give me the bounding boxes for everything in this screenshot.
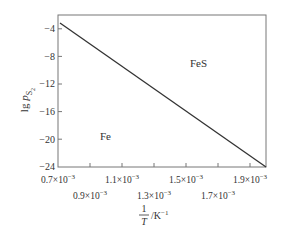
y-tick-label: −12 [39, 78, 55, 89]
plot-frame [58, 15, 266, 167]
svg-text:/K−1: /K−1 [151, 209, 169, 221]
x-tick-label: 1.7×10−3 [201, 189, 236, 201]
region-label-fe: Fe [100, 130, 111, 142]
y-tick-label: −4 [44, 23, 55, 34]
y-axis-label: lg pS2 [18, 88, 36, 112]
x-tick-label: 1.3×10−3 [137, 189, 172, 201]
svg-text:1: 1 [142, 203, 147, 214]
phase-diagram-chart: −4 −8 −12 −16 −20 −24 0.7×10−3 1.1×10−3 … [0, 0, 290, 242]
x-tick-label: 0.7×10−3 [41, 173, 76, 185]
x-axis-ticks [90, 163, 250, 167]
y-axis-ticks [58, 29, 62, 139]
x-tick-labels-lower: 0.9×10−3 1.3×10−3 1.7×10−3 [73, 189, 236, 201]
x-tick-labels-upper: 0.7×10−3 1.1×10−3 1.5×10−3 1.9×10−3 [41, 173, 268, 185]
y-tick-label: −16 [39, 106, 55, 117]
region-label-fes: FeS [190, 57, 207, 69]
x-tick-label: 0.9×10−3 [73, 189, 108, 201]
y-tick-label: −20 [39, 134, 55, 145]
x-axis-label: 1 T /K−1 [139, 203, 169, 227]
x-tick-label: 1.5×10−3 [169, 173, 204, 185]
svg-text:T: T [141, 216, 148, 227]
equilibrium-line [60, 23, 266, 167]
y-tick-label: −24 [39, 161, 55, 172]
y-tick-label: −8 [44, 51, 55, 62]
x-tick-label: 1.9×10−3 [233, 173, 268, 185]
x-tick-label: 1.1×10−3 [105, 173, 140, 185]
svg-text:lg pS2: lg pS2 [18, 88, 36, 112]
y-tick-labels: −4 −8 −12 −16 −20 −24 [39, 23, 55, 172]
